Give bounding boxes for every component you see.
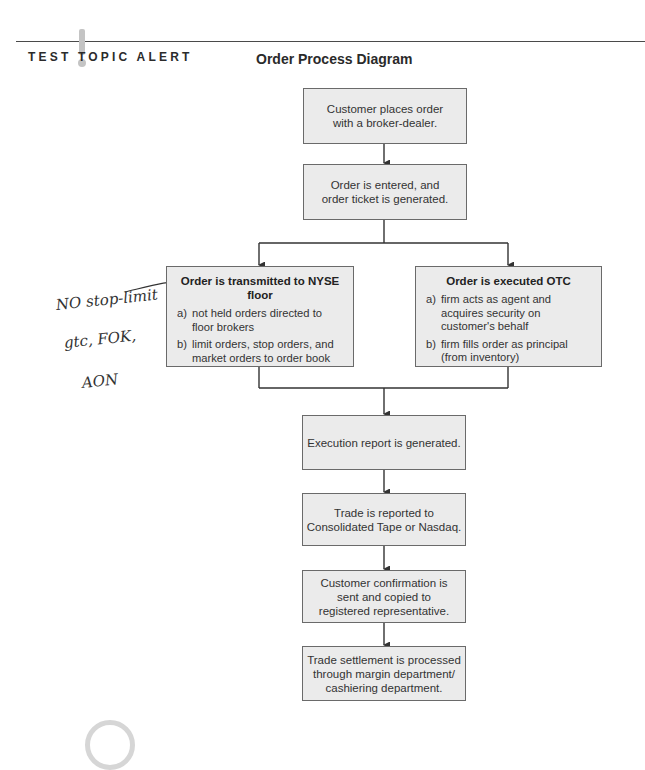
branch-item: b) firm fills order as principal (from i… (426, 338, 591, 365)
box-text-line: sent and copied to (337, 590, 431, 604)
step-trade-settlement: Trade settlement is processed through ma… (302, 646, 466, 701)
item-marker: a) (177, 307, 192, 334)
box-text-line: Consolidated Tape or Nasdaq. (307, 520, 462, 534)
branch-heading: Order is transmitted to NYSE floor (177, 274, 343, 302)
box-text-line: through margin department/ (313, 667, 455, 681)
item-marker: b) (177, 338, 192, 365)
step-trade-reported: Trade is reported to Consolidated Tape o… (302, 493, 466, 546)
box-text-line: order ticket is generated. (322, 192, 449, 206)
branch-nyse-floor: Order is transmitted to NYSE floor a) no… (166, 266, 354, 367)
handwritten-note-line-3: AON (81, 370, 119, 392)
item-text: firm acts as agent and acquires security… (441, 293, 591, 334)
step-customer-places-order: Customer places order with a broker-deal… (303, 88, 467, 144)
box-text-line: cashiering department. (326, 681, 443, 695)
item-text: limit orders, stop orders, and market or… (192, 338, 343, 365)
branch-item: a) firm acts as agent and acquires secur… (426, 293, 591, 334)
box-text-line: registered representative. (319, 604, 449, 618)
item-marker: a) (426, 293, 441, 334)
box-text-line: Customer confirmation is (320, 576, 447, 590)
partial-circle-icon (85, 720, 135, 770)
step-execution-report: Execution report is generated. (302, 415, 466, 470)
box-text-line: Trade settlement is processed (307, 653, 461, 667)
box-text-line: Order is entered, and (331, 178, 440, 192)
box-text-line: Execution report is generated. (307, 436, 460, 450)
branch-item: a) not held orders directed to floor bro… (177, 307, 343, 334)
step-order-entered: Order is entered, and order ticket is ge… (303, 164, 467, 220)
box-text-line: Customer places order (327, 102, 443, 116)
branch-heading: Order is executed OTC (426, 274, 591, 288)
step-customer-confirmation: Customer confirmation is sent and copied… (302, 570, 466, 623)
branch-item: b) limit orders, stop orders, and market… (177, 338, 343, 365)
branch-otc: Order is executed OTC a) firm acts as ag… (415, 266, 602, 367)
item-text: firm fills order as principal (from inve… (441, 338, 591, 365)
item-text: not held orders directed to floor broker… (192, 307, 343, 334)
box-text-line: with a broker-dealer. (333, 116, 437, 130)
item-marker: b) (426, 338, 441, 365)
box-text-line: Trade is reported to (334, 506, 434, 520)
